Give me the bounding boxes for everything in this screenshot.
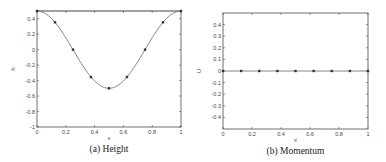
x-tick-label: 1 bbox=[179, 129, 182, 135]
data-marker bbox=[312, 70, 314, 72]
x-tick-label: 0.6 bbox=[120, 129, 128, 135]
chart-panel-momentum: 00.20.40.60.81-0.4-0.3-0.2-0.100.10.20.3… bbox=[196, 13, 370, 157]
y-tick-label: 0 bbox=[32, 47, 35, 53]
y-tick-label: 0.2 bbox=[27, 31, 35, 37]
y-tick-label: 0.2 bbox=[213, 45, 221, 51]
x-axis-label: x bbox=[294, 137, 297, 143]
y-tick-label: 0.3 bbox=[213, 33, 221, 39]
y-tick-label: 0.4 bbox=[213, 22, 221, 28]
data-marker bbox=[222, 70, 224, 72]
chart-panel-height: 00.20.40.60.81-1-0.8-0.6-0.4-0.200.20.4x… bbox=[10, 10, 183, 155]
caption: (b) Momentum bbox=[267, 146, 325, 157]
x-tick-label: 0.4 bbox=[91, 129, 99, 135]
y-tick-label: -0.2 bbox=[212, 91, 221, 97]
y-tick-label: -0.6 bbox=[26, 93, 35, 99]
x-tick-label: 1 bbox=[366, 131, 369, 137]
data-marker bbox=[331, 70, 333, 72]
x-tick-label: 0.6 bbox=[306, 131, 314, 137]
data-marker bbox=[90, 76, 92, 78]
x-tick-label: 0.4 bbox=[277, 131, 285, 137]
plot-area bbox=[37, 11, 181, 127]
y-tick-label: -0.8 bbox=[26, 109, 35, 115]
y-tick-label: 0 bbox=[218, 68, 221, 74]
caption: (a) Height bbox=[90, 144, 129, 155]
x-tick-label: 0.8 bbox=[335, 131, 343, 137]
data-marker bbox=[240, 70, 242, 72]
y-axis-label: U bbox=[196, 69, 202, 73]
data-marker bbox=[54, 21, 56, 23]
x-tick-label: 0 bbox=[35, 129, 38, 135]
y-tick-label: 0.4 bbox=[27, 16, 35, 22]
data-marker bbox=[294, 70, 296, 72]
y-tick-label: -0.1 bbox=[212, 80, 221, 86]
figure: 00.20.40.60.81-1-0.8-0.6-0.4-0.200.20.4x… bbox=[0, 0, 386, 162]
series-line bbox=[37, 11, 181, 88]
y-tick-label: 0.1 bbox=[213, 56, 221, 62]
data-marker bbox=[276, 70, 278, 72]
data-marker bbox=[72, 48, 74, 50]
y-axis-label: h bbox=[10, 67, 16, 70]
data-marker bbox=[258, 70, 260, 72]
y-tick-label: -0.4 bbox=[212, 114, 221, 120]
data-marker bbox=[108, 87, 110, 89]
data-marker bbox=[162, 21, 164, 23]
data-marker bbox=[180, 10, 182, 12]
y-tick-label: -0.3 bbox=[212, 103, 221, 109]
x-tick-label: 0.2 bbox=[62, 129, 70, 135]
x-tick-label: 0.2 bbox=[248, 131, 256, 137]
data-marker bbox=[36, 10, 38, 12]
x-tick-label: 0.8 bbox=[148, 129, 156, 135]
x-tick-label: 0 bbox=[221, 131, 224, 137]
data-marker bbox=[144, 48, 146, 50]
data-marker bbox=[126, 76, 128, 78]
y-tick-label: -0.4 bbox=[26, 78, 35, 84]
x-axis-label: x bbox=[108, 135, 111, 141]
y-tick-label: -0.2 bbox=[26, 62, 35, 68]
data-marker bbox=[367, 70, 369, 72]
y-tick-label: -1 bbox=[30, 124, 35, 130]
data-marker bbox=[349, 70, 351, 72]
